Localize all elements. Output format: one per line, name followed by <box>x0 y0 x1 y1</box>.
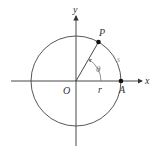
arc-length-diagram: y x O P A r θ s <box>0 0 160 154</box>
y-axis-label: y <box>72 4 78 15</box>
point-p-label: P <box>98 27 105 38</box>
point-a <box>119 79 124 84</box>
radius-op <box>76 42 99 81</box>
arc-length-label: s <box>117 55 120 64</box>
origin-label: O <box>63 85 70 96</box>
point-a-label: A <box>118 84 126 95</box>
x-axis-label: x <box>144 75 150 86</box>
angle-label: θ <box>96 64 101 74</box>
point-p <box>96 40 101 45</box>
radius-label: r <box>98 84 102 95</box>
